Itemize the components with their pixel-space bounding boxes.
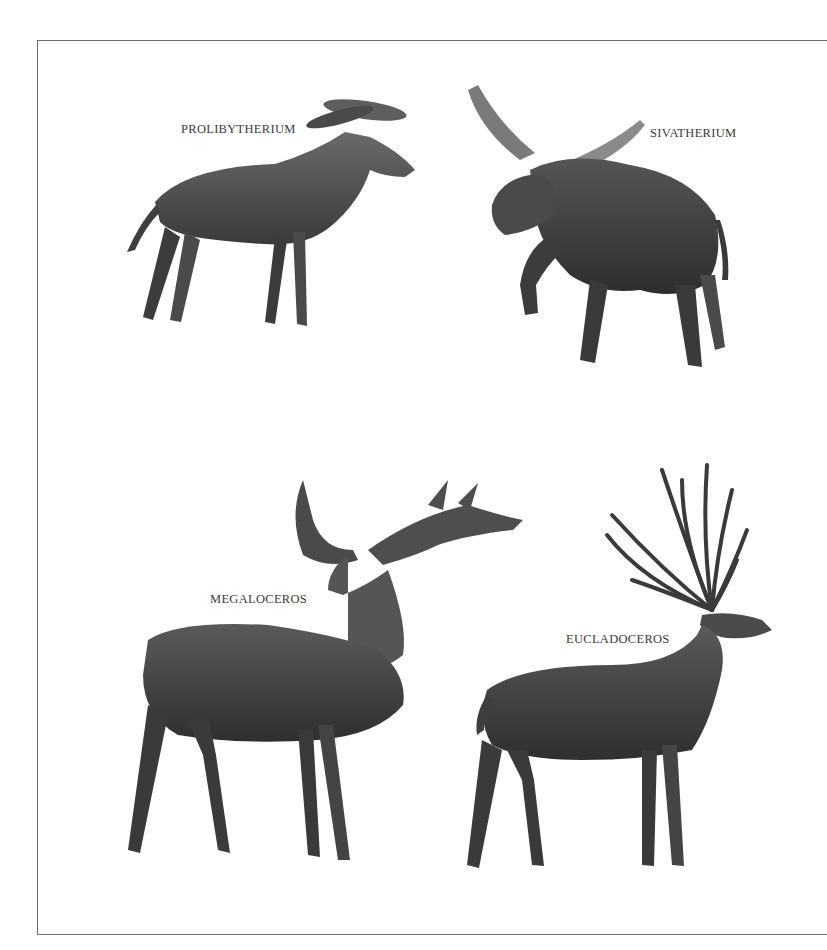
prolibytherium-illustration [115,92,420,337]
sivatherium-illustration [460,85,745,380]
eucladoceros-illustration [462,460,807,870]
